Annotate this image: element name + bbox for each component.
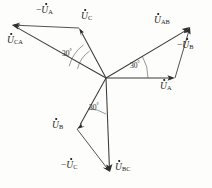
label-U-CA-subscript: CA [14,38,23,45]
vector-U-BC [106,78,112,172]
vector-minus-U-C-shaft [77,129,107,168]
label-U-C: UC [81,12,92,22]
label-U-BC-phasor-dot [118,160,120,162]
angle-label-lower-unit: ° [97,102,99,108]
angle-label-upper-left-unit: ° [70,48,72,54]
vector-U-AB-shaft [106,31,186,78]
label-U-BC-subscript: BC [122,165,131,172]
label-U-A-subscript: A [167,84,172,91]
label-U-A-symbol: U [160,82,167,92]
angle-label-upper-left: 30° [62,49,72,57]
label-minus-U-A-subscript: A [48,8,53,15]
label-U-BC: UBC [115,163,130,173]
label-minus-U-B-subscript: B [189,43,193,50]
label-minus-U-C-symbol: U [66,161,73,171]
label-U-BC-symbol: U [115,163,122,173]
phase-vectors [12,24,190,172]
arc-30-right [142,56,148,78]
label-minus-U-A-symbol: U [41,6,48,16]
vector-U-B-shaft [80,78,106,125]
angle-arcs [69,45,148,114]
arc-30-upper-left-inner [78,51,90,69]
label-U-A: UA [160,82,172,92]
angle-label-upper-left-value: 30 [62,49,70,58]
label-U-AB: UAB [154,16,170,26]
label-minus-U-A: −UA [36,6,53,16]
label-U-AB-phasor-dot [157,13,159,15]
angle-label-right-unit: ° [138,60,140,66]
label-U-B: UB [52,121,63,131]
angle-label-lower-value: 30 [89,103,97,112]
label-minus-U-A-phasor-dot [45,3,47,5]
label-minus-U-B-phasor-dot [186,38,188,40]
label-minus-U-B: −UB [177,41,194,51]
label-U-C-phasor-dot [84,9,86,11]
label-U-B-symbol: U [52,121,59,131]
label-U-B-phasor-dot [55,118,57,120]
label-U-A-phasor-dot [163,79,165,81]
label-U-AB-symbol: U [154,16,161,26]
label-U-CA: UCA [7,36,23,46]
vector-U-B-arrowhead [77,124,85,130]
angle-label-right-value: 30 [130,61,138,70]
angle-label-lower: 30° [89,103,99,111]
label-minus-U-C-subscript: C [73,163,77,170]
label-U-B-subscript: B [59,123,63,130]
label-U-C-subscript: C [88,14,92,21]
vector-minus-U-A [12,23,79,28]
label-minus-U-C-phasor-dot [70,158,72,160]
vector-U-BC-shaft [106,78,109,167]
vector-minus-U-C [77,129,110,172]
label-U-C-symbol: U [81,12,88,22]
label-U-CA-symbol: U [7,36,14,46]
angle-label-right: 30° [130,61,140,69]
label-minus-U-C: −UC [61,161,78,171]
label-U-CA-phasor-dot [10,33,12,35]
vector-minus-U-A-shaft [18,25,80,28]
phasor-diagram: UA UB UC UAB UBC UCA −UA −UB −UC 30° 30° [0,0,212,188]
label-U-AB-subscript: AB [161,18,170,25]
phasor-diagram-canvas [0,0,212,188]
label-minus-U-B-symbol: U [182,41,189,51]
construction-vectors [12,23,191,172]
vector-minus-U-B [175,27,191,78]
